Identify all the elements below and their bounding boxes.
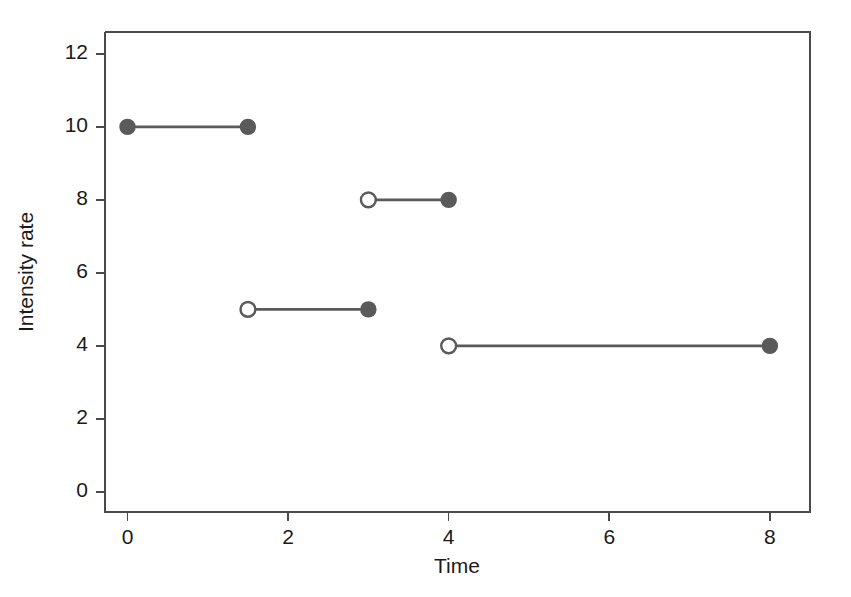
step-chart: 024681012 02468 Time Intensity rate xyxy=(0,0,851,597)
open-endpoint-marker xyxy=(241,302,256,317)
y-tick-label: 4 xyxy=(76,332,88,355)
x-tick-label: 4 xyxy=(443,525,455,548)
y-tick-label: 10 xyxy=(65,113,88,136)
closed-endpoint-marker xyxy=(240,119,256,135)
x-axis-title: Time xyxy=(434,554,480,577)
y-tick-label: 8 xyxy=(76,186,88,209)
x-tick-label: 0 xyxy=(122,525,134,548)
open-endpoint-marker xyxy=(441,339,456,354)
chart-container: 024681012 02468 Time Intensity rate xyxy=(0,0,851,597)
x-tick-label: 8 xyxy=(764,525,776,548)
open-endpoint-marker xyxy=(361,193,376,208)
closed-endpoint-marker xyxy=(119,119,135,135)
y-tick-label: 2 xyxy=(76,405,88,428)
closed-endpoint-marker xyxy=(360,301,376,317)
closed-endpoint-marker xyxy=(440,192,456,208)
y-tick-label: 0 xyxy=(76,478,88,501)
y-axis-title: Intensity rate xyxy=(14,212,37,332)
chart-background xyxy=(0,0,851,597)
closed-endpoint-marker xyxy=(762,338,778,354)
y-tick-label: 12 xyxy=(65,40,88,63)
x-tick-label: 6 xyxy=(603,525,615,548)
x-tick-label: 2 xyxy=(282,525,294,548)
y-tick-label: 6 xyxy=(76,259,88,282)
